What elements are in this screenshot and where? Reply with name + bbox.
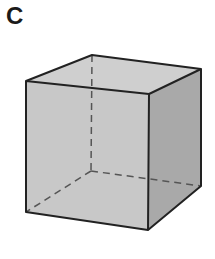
cube-diagram [0,0,215,259]
cube-right-face [148,69,201,230]
cube-front-face [26,81,149,230]
figure-panel: C [0,0,215,259]
